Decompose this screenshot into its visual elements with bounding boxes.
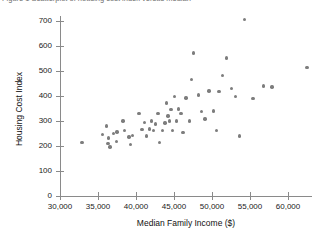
scatter-point <box>175 119 178 122</box>
scatter-point <box>101 133 104 136</box>
x-axis-tick <box>136 192 137 200</box>
scatter-point <box>190 78 193 81</box>
y-axis-tick-label: 100 <box>22 167 52 175</box>
y-axis-tick-label-text: 500 <box>26 67 52 75</box>
scatter-point <box>188 119 191 122</box>
y-axis-tick-label: 400 <box>22 92 52 100</box>
y-axis-tick-label: 300 <box>22 117 52 125</box>
scatter-point <box>251 97 254 100</box>
plot-area: 0100200300400500600700 30,00035,00040,00… <box>0 0 318 241</box>
scatter-point <box>107 136 110 139</box>
scatter-point <box>154 122 157 125</box>
scatter-point <box>131 134 134 137</box>
scatter-point <box>80 141 83 144</box>
y-axis-tick-label-text: 700 <box>26 17 52 25</box>
scatter-point <box>171 129 174 132</box>
scatter-point <box>115 140 118 143</box>
x-axis-title: Median Family Income ($) <box>60 218 312 228</box>
scatter-point <box>168 119 171 122</box>
scatter-point <box>156 112 159 115</box>
y-axis-tick-label-text: 200 <box>26 142 52 150</box>
y-axis-tick-label-text: 100 <box>26 167 52 175</box>
y-axis-tick <box>56 121 64 122</box>
x-axis-tick-label: 60,000 <box>266 202 310 211</box>
y-axis-tick <box>56 96 64 97</box>
scatter-point <box>143 121 146 124</box>
x-axis-tick <box>212 192 213 200</box>
y-axis-tick-label-text: 0 <box>26 192 52 200</box>
x-axis-tick <box>60 192 61 200</box>
scatter-point <box>270 85 273 88</box>
scatter-plot-figure: Figure 1 Scatterplot of housing cost ind… <box>0 0 318 241</box>
scatter-point <box>161 129 164 132</box>
x-axis-tick <box>288 192 289 200</box>
y-axis-tick-label: 700 <box>22 17 52 25</box>
x-axis-tick <box>98 192 99 200</box>
scatter-point <box>215 129 218 132</box>
y-axis-tick <box>56 146 64 147</box>
y-axis-tick-label: 0 <box>22 192 52 200</box>
scatter-point <box>163 121 166 124</box>
scatter-point <box>121 119 124 122</box>
scatter-point <box>184 96 187 99</box>
y-axis-tick <box>56 21 64 22</box>
scatter-point <box>158 141 161 144</box>
scatter-point <box>192 51 195 54</box>
y-axis-tick-label: 600 <box>22 42 52 50</box>
scatter-point <box>217 90 220 93</box>
scatter-point <box>207 89 210 92</box>
scatter-point <box>234 95 237 98</box>
scatter-point <box>212 109 215 112</box>
y-axis-tick-label: 200 <box>22 142 52 150</box>
y-axis-tick-label: 500 <box>22 67 52 75</box>
scatter-point <box>197 93 200 96</box>
scatter-point <box>203 117 206 120</box>
scatter-point <box>115 130 118 133</box>
scatter-point <box>152 129 155 132</box>
y-axis-line <box>60 16 61 197</box>
scatter-point <box>123 129 126 132</box>
scatter-point <box>238 134 241 137</box>
y-axis-tick-label-text: 600 <box>26 42 52 50</box>
scatter-point <box>230 87 233 90</box>
scatter-point <box>137 112 140 115</box>
scatter-point <box>145 134 148 137</box>
scatter-point <box>221 74 224 77</box>
scatter-point <box>105 124 108 127</box>
scatter-point <box>140 128 143 131</box>
y-axis-tick-label-text: 400 <box>26 92 52 100</box>
scatter-point <box>165 101 168 104</box>
scatter-point <box>305 66 308 69</box>
scatter-point <box>173 95 176 98</box>
y-axis-tick <box>56 46 64 47</box>
x-axis-tick <box>250 192 251 200</box>
scatter-point <box>179 112 182 115</box>
scatter-point <box>108 145 111 148</box>
scatter-point <box>129 143 132 146</box>
x-axis-tick <box>174 192 175 200</box>
scatter-point <box>200 110 203 113</box>
scatter-point <box>169 108 172 111</box>
scatter-point <box>181 131 184 134</box>
scatter-point <box>243 18 246 21</box>
scatter-point <box>166 114 169 117</box>
y-axis-tick <box>56 171 64 172</box>
scatter-point <box>148 127 151 130</box>
scatter-point <box>150 119 153 122</box>
scatter-point <box>225 56 228 59</box>
y-axis-tick-label-text: 300 <box>26 117 52 125</box>
y-axis-title: Housing Cost Index <box>14 54 24 164</box>
scatter-point <box>177 107 180 110</box>
scatter-point <box>262 84 265 87</box>
y-axis-tick <box>56 71 64 72</box>
